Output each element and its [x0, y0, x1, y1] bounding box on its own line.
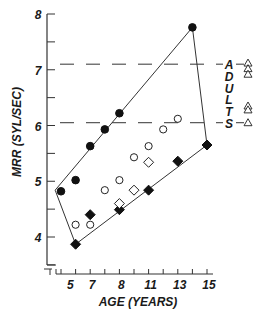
open-circle-point	[145, 143, 152, 150]
filled-circle-point	[57, 187, 65, 195]
filled-circle-point	[189, 24, 197, 32]
open-circle-point	[87, 221, 94, 228]
filled-circle-point	[72, 176, 80, 184]
envelope	[55, 27, 207, 244]
y-tick-label: 4	[34, 231, 42, 245]
x-tick-label: 7	[89, 278, 97, 292]
filled-circle-point	[116, 109, 124, 117]
x-tick-label: 5	[67, 278, 74, 292]
filled-diamond-point	[85, 210, 95, 220]
open-circle-point	[130, 154, 137, 161]
y-tick-label: 8	[35, 8, 42, 22]
open-circle-point	[160, 126, 167, 133]
data-points	[57, 24, 212, 250]
y-tick-label: 6	[35, 120, 42, 134]
y-tick-label: 5	[35, 175, 42, 189]
x-tick-label: 11	[144, 278, 157, 292]
adult-triangle-marker	[244, 119, 252, 126]
open-diamond-point	[129, 185, 139, 195]
open-circle-point	[174, 115, 181, 122]
x-axis-title: AGE (YEARS)	[98, 295, 178, 309]
open-circle-point	[72, 221, 79, 228]
x-tick-label: 13	[173, 278, 187, 292]
y-axis-title: MRR (SYL/SEC)	[10, 87, 24, 177]
y-tick-label: 7	[35, 64, 43, 78]
adult-reference: ADULTS	[60, 58, 252, 131]
filled-diamond-point	[71, 239, 81, 249]
open-circle-point	[116, 177, 123, 184]
open-diamond-point	[144, 157, 154, 167]
open-circle-point	[101, 187, 108, 194]
envelope-polygon	[55, 27, 207, 244]
mrr-age-chart: 87654578111315 ADULTS AGE (YEARS) MRR (S…	[0, 0, 264, 317]
x-tick-label: 15	[202, 278, 216, 292]
adults-label-letter: S	[225, 117, 233, 131]
open-diamond-point	[114, 199, 124, 209]
x-tick-label: 8	[118, 278, 125, 292]
filled-circle-point	[101, 126, 109, 134]
axes: 87654578111315	[34, 8, 216, 292]
filled-circle-point	[86, 142, 94, 150]
filled-diamond-point	[202, 140, 212, 150]
